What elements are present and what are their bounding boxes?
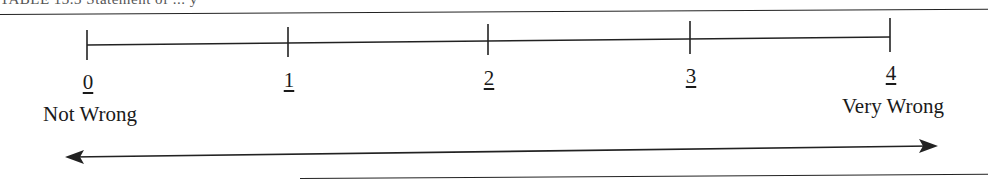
tick-label-1: 1 bbox=[284, 68, 295, 93]
tick-label-2: 2 bbox=[484, 66, 495, 91]
tick-label-4: 4 bbox=[886, 61, 897, 86]
rating-scale bbox=[0, 0, 988, 183]
right-anchor-label: Very Wrong bbox=[842, 94, 944, 119]
left-anchor-label: Not Wrong bbox=[43, 102, 137, 127]
tick-label-0: 0 bbox=[83, 70, 94, 95]
double-arrow bbox=[65, 139, 938, 164]
tick-label-3: 3 bbox=[686, 64, 697, 89]
